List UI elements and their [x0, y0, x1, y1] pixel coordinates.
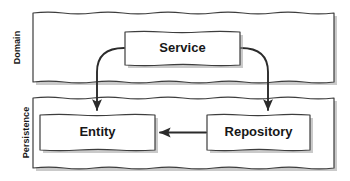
diagram-canvas: Domain Persistence Service Entity Reposi…: [0, 0, 350, 180]
persistence-layer-label: Persistence: [22, 83, 31, 181]
domain-layer-label: Domain: [13, 14, 22, 82]
diagram-graphics: [0, 0, 350, 180]
repository-node-label: Repository: [207, 125, 310, 138]
service-node-label: Service: [125, 41, 240, 54]
entity-node-label: Entity: [40, 125, 155, 138]
